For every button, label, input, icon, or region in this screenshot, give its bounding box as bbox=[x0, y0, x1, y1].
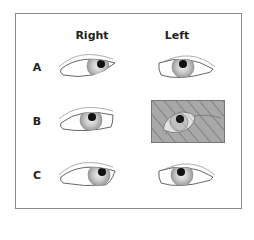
row-label-b: B bbox=[31, 115, 43, 128]
eye-icon-a-right bbox=[55, 49, 119, 83]
row-label-c: C bbox=[31, 169, 43, 182]
column-header-right: Right bbox=[62, 29, 122, 42]
row-label-a: A bbox=[31, 61, 43, 74]
eye-icon-b-right bbox=[55, 103, 119, 137]
eye-icon-c-right bbox=[55, 157, 119, 191]
eye-cover-icon-b-left bbox=[151, 100, 225, 143]
eye-icon-a-left bbox=[155, 49, 219, 83]
column-header-left: Left bbox=[147, 29, 207, 42]
eye-icon-c-left bbox=[155, 157, 219, 191]
